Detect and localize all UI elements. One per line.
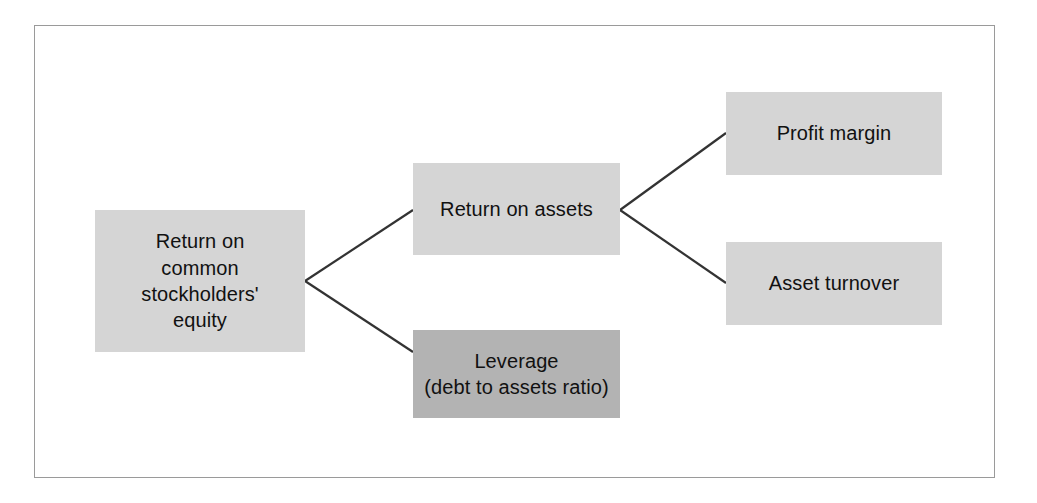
edge-roe-to-leverage <box>305 281 413 352</box>
node-label: Leverage (debt to assets ratio) <box>424 348 609 401</box>
node-return-on-common-stockholders-equity: Return on common stockholders' equity <box>95 210 305 352</box>
diagram-page: Return on common stockholders' equity Re… <box>0 0 1037 503</box>
edge-roa-to-asset-turnover <box>620 210 726 283</box>
node-label: Asset turnover <box>769 270 899 296</box>
edge-roe-to-roa <box>305 210 413 281</box>
node-label: Return on assets <box>440 196 593 222</box>
edge-roa-to-profit-margin <box>620 133 726 210</box>
node-label: Profit margin <box>777 120 892 146</box>
node-return-on-assets: Return on assets <box>413 163 620 255</box>
node-leverage: Leverage (debt to assets ratio) <box>413 330 620 418</box>
node-profit-margin: Profit margin <box>726 92 942 175</box>
node-asset-turnover: Asset turnover <box>726 242 942 325</box>
node-label: Return on common stockholders' equity <box>141 228 258 334</box>
